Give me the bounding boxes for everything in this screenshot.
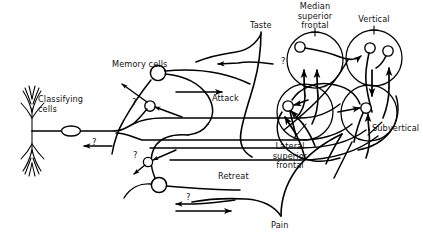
subvertical-ascending-input xyxy=(368,114,369,130)
memory-cell-upper-axon-b xyxy=(165,70,250,84)
classifying-cells-label: Classifying cells xyxy=(38,95,83,114)
memory-cell-small-axon xyxy=(134,165,145,174)
lsf-neuron-input-arrow xyxy=(294,100,308,105)
subvertical-neuron-soma xyxy=(361,103,371,113)
memory-cell-lower-soma xyxy=(151,177,166,192)
lobe-recurrent-loop-3 xyxy=(284,60,348,130)
median-superior-frontal-label: Median superior frontal xyxy=(292,2,338,31)
memory-cell-small-input xyxy=(153,150,176,160)
pain-label: Pain xyxy=(271,221,288,231)
memory-cell-upper-descend xyxy=(188,124,208,135)
vertical-label: Vertical xyxy=(353,15,395,25)
question-mark-memory-upper: ? xyxy=(132,98,137,107)
lobe-output-tract xyxy=(334,142,352,178)
memory-cell-upper-axon xyxy=(166,74,213,124)
msf-neuron-axon xyxy=(305,48,361,60)
vertical-tick xyxy=(370,26,378,34)
lateral-superior-frontal-label: Lateral superior frontal xyxy=(263,142,317,171)
subvertical-label: Subvertical xyxy=(372,124,419,134)
attack-label: Attack xyxy=(212,94,239,104)
trunk-line-2 xyxy=(116,133,300,140)
memory-cell-lower-axon xyxy=(167,186,241,190)
msf-ascending-input-2 xyxy=(317,70,318,96)
vertical-lobe-outline xyxy=(346,30,402,86)
pain-fiber-left xyxy=(192,199,281,216)
subvertical-neuron-axon xyxy=(354,113,363,142)
vertical-neuron-2-axon xyxy=(376,56,386,68)
vertical-neuron-soma-1 xyxy=(365,43,375,53)
taste-fiber-left xyxy=(196,34,261,62)
lsf-neuron-soma xyxy=(283,101,293,111)
question-mark-top-right: ? xyxy=(281,57,286,66)
retreat-label: Retreat xyxy=(218,172,249,182)
q-arrow-top-right xyxy=(218,62,273,64)
vertical-ascending-stem xyxy=(383,88,389,118)
msf-input-stem-1 xyxy=(296,96,305,118)
vertical-neuron-soma-2 xyxy=(383,46,393,56)
diagram-canvas xyxy=(0,0,423,239)
question-mark-trunk-left: ? xyxy=(92,138,97,147)
msf-neuron-soma xyxy=(295,42,305,52)
question-mark-bottom: ? xyxy=(186,193,191,202)
neural-circuit-diagram: Classifying cells Memory cells Attack Re… xyxy=(0,0,423,239)
msf-ascending-input-1 xyxy=(304,70,305,96)
memory-cell-lower-branch xyxy=(124,184,151,198)
memory-cells-label: Memory cells xyxy=(112,60,167,70)
memory-cell-lower-dendrite xyxy=(151,135,188,178)
classifying-cell-soma xyxy=(62,126,81,136)
memory-cell-mid-input xyxy=(155,107,182,117)
taste-label: Taste xyxy=(250,21,272,31)
question-mark-mid-lower: ? xyxy=(133,151,138,160)
